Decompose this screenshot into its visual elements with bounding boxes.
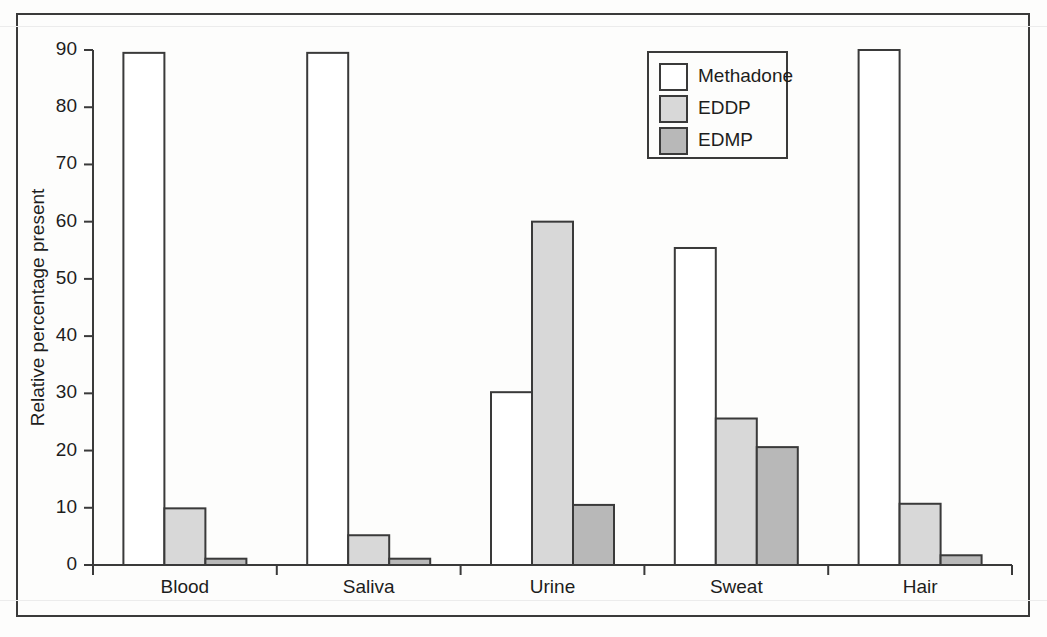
chart-plot-area: 0102030405060708090Relative percentage p… [18,15,1032,619]
legend-label-methadone: Methadone [698,65,793,86]
bar-urine-eddp [532,222,573,565]
bar-blood-eddp [164,508,205,565]
x-axis-category-label: Urine [530,576,575,597]
x-axis-category-label: Sweat [710,576,764,597]
bar-saliva-eddp [348,535,389,565]
bar-urine-edmp [573,505,614,565]
y-axis-tick-label: 80 [56,95,77,116]
bar-saliva-edmp [389,559,430,565]
y-axis-tick-label: 0 [66,553,77,574]
y-axis-tick-label: 40 [56,324,77,345]
bar-chart: 0102030405060708090Relative percentage p… [18,15,1032,619]
bar-sweat-eddp [716,419,757,565]
x-axis-category-label: Saliva [343,576,395,597]
legend-label-eddp: EDDP [698,97,751,118]
legend-swatch-methadone [660,64,687,90]
bar-urine-methadone [491,392,532,565]
y-axis-tick-label: 90 [56,38,77,59]
legend-swatch-edmp [660,128,687,154]
bar-blood-methadone [123,53,164,565]
y-axis-tick-label: 50 [56,267,77,288]
bar-blood-edmp [205,559,246,565]
bar-hair-eddp [900,504,941,565]
x-axis-category-label: Hair [903,576,939,597]
bar-saliva-methadone [307,53,348,565]
bar-hair-edmp [941,555,982,565]
y-axis-label: Relative percentage present [27,188,48,426]
bar-sweat-edmp [757,447,798,565]
x-axis-category-label: Blood [161,576,210,597]
legend-label-edmp: EDMP [698,129,753,150]
y-axis-tick-label: 20 [56,439,77,460]
legend-swatch-eddp [660,96,687,122]
bar-sweat-methadone [675,248,716,565]
y-axis-tick-label: 10 [56,496,77,517]
y-axis-tick-label: 70 [56,152,77,173]
y-axis-tick-label: 30 [56,381,77,402]
figure-frame: 0102030405060708090Relative percentage p… [16,13,1030,617]
bar-hair-methadone [859,50,900,565]
y-axis-tick-label: 60 [56,210,77,231]
